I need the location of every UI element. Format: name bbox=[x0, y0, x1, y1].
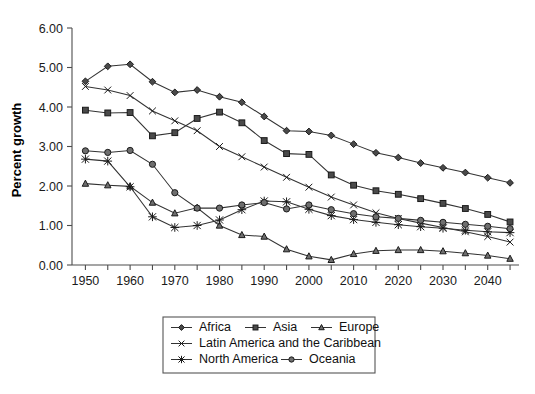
data-point-diamond bbox=[171, 89, 178, 96]
y-axis-title: Percent growth bbox=[9, 103, 24, 198]
x-tick-label: 1990 bbox=[250, 274, 278, 288]
y-tick-label: 2.00 bbox=[39, 180, 63, 194]
series-group bbox=[81, 61, 514, 263]
data-point-circle bbox=[82, 148, 88, 154]
x-tick-label: 1950 bbox=[72, 274, 100, 288]
data-point-circle bbox=[289, 357, 294, 362]
data-point-circle bbox=[194, 205, 200, 211]
data-point-diamond bbox=[440, 164, 447, 171]
data-point-diamond bbox=[507, 179, 514, 186]
x-tick-label: 1960 bbox=[116, 274, 144, 288]
data-point-diamond bbox=[216, 93, 223, 100]
data-point-cross-x bbox=[350, 202, 357, 209]
data-point-cross-x bbox=[283, 174, 290, 181]
data-point-diamond bbox=[350, 141, 357, 148]
data-point-circle bbox=[507, 226, 513, 232]
data-point-star bbox=[126, 182, 135, 191]
data-point-square bbox=[150, 133, 156, 139]
data-point-star bbox=[103, 157, 112, 166]
population-growth-chart: 0.001.002.003.004.005.006.00 19501960197… bbox=[0, 0, 535, 394]
data-point-square bbox=[328, 172, 334, 178]
chart-svg: 0.001.002.003.004.005.006.00 19501960197… bbox=[0, 0, 535, 394]
data-point-triangle bbox=[149, 199, 155, 205]
data-point-star bbox=[81, 155, 90, 164]
x-tick-label: 1970 bbox=[161, 274, 189, 288]
data-point-diamond bbox=[395, 154, 402, 161]
data-point-star bbox=[148, 212, 157, 221]
data-point-square bbox=[105, 110, 111, 116]
x-tick-label: 1980 bbox=[206, 274, 234, 288]
data-point-square bbox=[418, 196, 424, 202]
data-point-cross-x bbox=[194, 127, 201, 134]
data-point-star bbox=[215, 216, 224, 225]
data-point-circle bbox=[328, 207, 334, 213]
data-point-square bbox=[172, 130, 178, 136]
data-point-square bbox=[462, 206, 468, 212]
data-point-cross-x bbox=[171, 117, 178, 124]
data-point-circle bbox=[351, 211, 357, 217]
chart-legend: AfricaAsiaEuropeLatin America and the Ca… bbox=[163, 317, 381, 373]
data-point-square bbox=[239, 120, 245, 126]
legend-item-latin-america-and-the-caribbean[interactable]: Latin America and the Caribbean bbox=[171, 336, 381, 350]
data-point-circle bbox=[216, 205, 222, 211]
data-point-diamond bbox=[261, 113, 268, 120]
data-point-circle bbox=[373, 214, 379, 220]
data-point-square bbox=[261, 138, 267, 144]
data-point-diamond bbox=[306, 128, 313, 135]
x-tick-label: 2010 bbox=[340, 274, 368, 288]
data-point-star bbox=[170, 223, 179, 232]
data-point-circle bbox=[440, 219, 446, 225]
series-oceania bbox=[82, 147, 513, 231]
data-point-diamond bbox=[283, 127, 290, 134]
data-point-circle bbox=[172, 190, 178, 196]
data-point-circle bbox=[485, 223, 491, 229]
data-point-diamond bbox=[373, 149, 380, 156]
data-point-square bbox=[440, 200, 446, 206]
data-point-square bbox=[83, 107, 89, 113]
data-point-square bbox=[194, 116, 200, 122]
data-point-circle bbox=[105, 149, 111, 155]
data-point-square bbox=[507, 219, 513, 225]
data-point-cross-x bbox=[238, 153, 245, 160]
data-point-cross-x bbox=[306, 184, 313, 191]
data-point-circle bbox=[462, 221, 468, 227]
data-point-cross-x bbox=[216, 143, 223, 150]
x-tick-label: 2030 bbox=[429, 274, 457, 288]
x-tick-labels: 1950196019701980199020002010202020302040 bbox=[72, 274, 502, 288]
data-point-diamond bbox=[238, 99, 245, 106]
data-point-circle bbox=[239, 202, 245, 208]
data-point-diamond bbox=[462, 169, 469, 176]
data-point-square bbox=[351, 182, 357, 188]
data-point-square bbox=[485, 212, 491, 218]
data-point-star bbox=[178, 356, 185, 363]
x-tick-label: 2040 bbox=[474, 274, 502, 288]
legend-label: North America bbox=[199, 352, 278, 366]
legend-label: Latin America and the Caribbean bbox=[199, 336, 381, 350]
data-point-diamond bbox=[104, 63, 111, 70]
data-point-circle bbox=[283, 206, 289, 212]
data-point-square bbox=[253, 325, 258, 330]
y-tick-label: 0.00 bbox=[39, 259, 63, 273]
data-point-cross-x bbox=[507, 239, 514, 246]
data-point-circle bbox=[149, 161, 155, 167]
data-point-triangle bbox=[82, 180, 88, 186]
data-point-diamond bbox=[194, 87, 201, 94]
series-africa bbox=[82, 61, 513, 186]
data-point-diamond bbox=[484, 174, 491, 181]
data-point-star bbox=[193, 221, 202, 230]
legend-label: Asia bbox=[273, 320, 297, 334]
x-tick-label: 2000 bbox=[295, 274, 323, 288]
data-point-square bbox=[284, 151, 290, 157]
data-point-diamond bbox=[417, 160, 424, 167]
data-point-cross-x bbox=[261, 164, 268, 171]
axes-group bbox=[67, 28, 519, 270]
data-point-star bbox=[282, 197, 291, 206]
data-point-circle bbox=[261, 199, 267, 205]
plot-area: 0.001.002.003.004.005.006.00 19501960197… bbox=[39, 22, 519, 289]
y-tick-label: 3.00 bbox=[39, 140, 63, 154]
series-europe bbox=[82, 180, 513, 262]
data-point-square bbox=[395, 191, 401, 197]
legend-label: Oceania bbox=[309, 352, 356, 366]
data-point-circle bbox=[127, 147, 133, 153]
data-point-circle bbox=[418, 217, 424, 223]
